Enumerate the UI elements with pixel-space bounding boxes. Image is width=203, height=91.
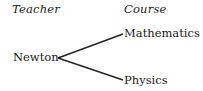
- root-node-newton: Newton: [13, 51, 59, 64]
- child-node-mathematics: Mathematics: [124, 27, 200, 40]
- edge-newton-physics: [58, 58, 123, 80]
- connector-lines: [0, 0, 203, 91]
- child-node-physics: Physics: [124, 74, 168, 87]
- edge-newton-mathematics: [58, 34, 123, 58]
